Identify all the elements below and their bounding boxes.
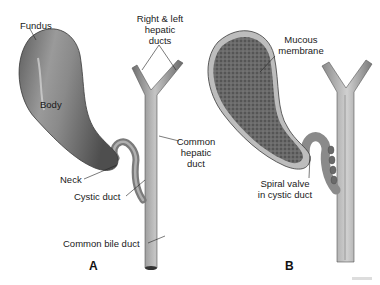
label-common-hepatic-line3: duct: [176, 158, 216, 169]
label-mucous-membrane: Mucous membrane: [276, 34, 326, 56]
label-neck: Neck: [60, 174, 82, 185]
panel-a-artwork: [19, 29, 183, 270]
label-cystic-duct: Cystic duct: [74, 191, 120, 202]
illustrator-signature: [352, 277, 372, 280]
label-hepatic-line3: ducts: [135, 35, 185, 46]
label-hepatic-line2: hepatic: [135, 24, 185, 35]
gallbladder-diagram: Fundus Body Neck Cystic duct Common bile…: [0, 0, 380, 285]
label-spiral-line1: Spiral valve: [253, 178, 317, 189]
panel-letter-a: A: [89, 259, 98, 273]
label-right-left-hepatic-ducts: Right & left hepatic ducts: [135, 13, 185, 46]
label-spiral-valve: Spiral valve in cystic duct: [253, 178, 317, 200]
label-hepatic-line1: Right & left: [135, 13, 185, 24]
label-common-hepatic-line1: Common: [176, 136, 216, 147]
label-common-bile-duct: Common bile duct: [63, 238, 140, 249]
label-spiral-line2: in cystic duct: [253, 189, 317, 200]
label-common-hepatic-duct: Common hepatic duct: [176, 136, 216, 169]
label-fundus: Fundus: [20, 20, 52, 31]
label-mucous-line2: membrane: [276, 45, 326, 56]
label-body: Body: [40, 99, 62, 110]
panel-b-artwork: [208, 31, 372, 262]
panel-letter-b: B: [285, 259, 294, 273]
label-mucous-line1: Mucous: [276, 34, 326, 45]
label-common-hepatic-line2: hepatic: [176, 147, 216, 158]
